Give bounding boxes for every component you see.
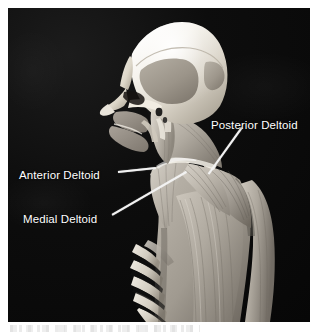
- anatomy-figure: Posterior Deltoid Anterior Deltoid Media…: [8, 8, 310, 322]
- ear-canal: [156, 108, 163, 116]
- label-medial-deltoid: Medial Deltoid: [23, 214, 97, 226]
- scan-artifact: [10, 325, 200, 332]
- anatomy-illustration: [8, 8, 310, 322]
- label-anterior-deltoid: Anterior Deltoid: [19, 170, 100, 182]
- frontal-bone: [120, 56, 133, 90]
- label-posterior-deltoid: Posterior Deltoid: [211, 120, 298, 132]
- skull-group: [100, 22, 228, 152]
